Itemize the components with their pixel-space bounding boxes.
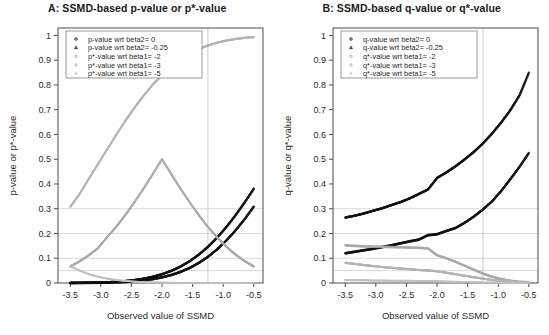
x-tick-label: -1.0	[215, 290, 231, 300]
y-tick-label: 0.4	[313, 179, 326, 189]
x-tick-label: -1.0	[490, 290, 506, 300]
legend: q-value wrt beta2= 0q-value wrt beta2= -…	[341, 31, 477, 78]
x-tick-label: -0.5	[246, 290, 262, 300]
y-tick-label: 0.8	[38, 80, 51, 90]
y-tick-label: 0.9	[38, 55, 51, 65]
y-tick-label: 0.2	[313, 229, 326, 239]
x-tick-label: -3.5	[337, 290, 353, 300]
data-series	[69, 158, 254, 267]
legend: p-value wrt beta2= 0p-value wrt beta2= -…	[66, 31, 202, 78]
y-tick-label: 0.4	[38, 179, 51, 189]
y-tick-label: 1	[320, 31, 325, 41]
x-axis-label: Observed value of SSMD	[107, 310, 214, 321]
panel-a-plot: 00.10.20.30.40.50.60.70.80.91-3.5-3.0-2.…	[0, 0, 275, 335]
y-tick-label: 0.7	[313, 105, 326, 115]
y-tick-label: 0	[46, 278, 51, 288]
data-series	[344, 72, 529, 218]
x-tick-label: -0.5	[521, 290, 537, 300]
x-tick-label: -2.0	[154, 290, 170, 300]
y-tick-label: 0.5	[38, 154, 51, 164]
y-tick-label: 0.3	[38, 204, 51, 214]
x-tick-label: -2.0	[429, 290, 445, 300]
x-tick-label: -3.0	[368, 290, 384, 300]
y-axis: 00.10.20.30.40.50.60.70.80.91	[313, 31, 333, 289]
panel-b-svg: 00.10.20.30.40.50.60.70.80.91-3.5-3.0-2.…	[275, 0, 549, 335]
data-series	[69, 206, 254, 284]
data-series	[344, 245, 529, 283]
x-tick-label: -1.5	[459, 290, 475, 300]
x-axis: -3.5-3.0-2.5-2.0-1.5-1.0-0.5	[337, 283, 536, 300]
panel-a: A: SSMD-based p-value or p*-value 00.10.…	[0, 0, 275, 335]
y-tick-label: 0.8	[313, 80, 326, 90]
legend-label: q*-value wrt beta1= -5	[363, 69, 436, 78]
x-axis-label: Observed value of SSMD	[381, 310, 488, 321]
y-tick-label: 0.6	[38, 130, 51, 140]
x-tick-label: -1.5	[185, 290, 201, 300]
y-tick-label: 0.5	[313, 154, 326, 164]
y-tick-label: 1	[46, 31, 51, 41]
panel-b: B: SSMD-based q-value or q*-value 00.10.…	[275, 0, 549, 335]
x-tick-label: -3.0	[93, 290, 109, 300]
y-axis: 00.10.20.30.40.50.60.70.80.91	[38, 31, 58, 289]
x-tick-label: -3.5	[62, 290, 78, 300]
y-axis-label: q-value or q*-value	[282, 116, 293, 196]
y-tick-label: 0.7	[38, 105, 51, 115]
y-tick-label: 0	[320, 278, 325, 288]
x-axis: -3.5-3.0-2.5-2.0-1.5-1.0-0.5	[62, 283, 261, 300]
y-tick-label: 0.2	[38, 229, 51, 239]
panel-b-plot: 00.10.20.30.40.50.60.70.80.91-3.5-3.0-2.…	[275, 0, 549, 335]
x-tick-label: -2.5	[398, 290, 414, 300]
panel-a-svg: 00.10.20.30.40.50.60.70.80.91-3.5-3.0-2.…	[0, 0, 275, 335]
data-series-group	[344, 72, 529, 284]
y-tick-label: 0.1	[38, 253, 51, 263]
y-tick-label: 0.1	[313, 253, 326, 263]
y-tick-label: 0.3	[313, 204, 326, 214]
legend-label: p*-value wrt beta1= -5	[88, 69, 161, 78]
data-series	[69, 187, 254, 283]
data-series	[344, 152, 529, 254]
data-point	[527, 72, 529, 74]
y-tick-label: 0.6	[313, 130, 326, 140]
y-axis-label: p-value or p*-value	[7, 116, 18, 196]
x-tick-label: -2.5	[124, 290, 140, 300]
y-tick-label: 0.9	[313, 55, 326, 65]
figure-root: A: SSMD-based p-value or p*-value 00.10.…	[0, 0, 549, 335]
